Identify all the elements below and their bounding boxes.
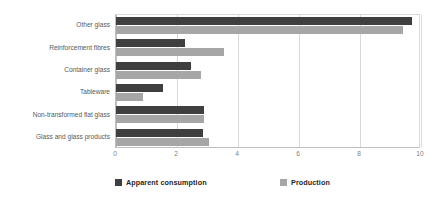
bar-1 xyxy=(116,71,201,79)
bar-group xyxy=(116,60,419,82)
tick-label-4: 4 xyxy=(235,150,239,157)
bar-1 xyxy=(116,48,224,56)
legend-item-0[interactable]: Apparent consumption xyxy=(115,176,207,188)
category-label: Other glass xyxy=(0,21,110,29)
category-label: Tableware xyxy=(0,88,110,96)
bar-chart: Other glassReinforcement fibresContainer… xyxy=(0,0,448,201)
category-label: Container glass xyxy=(0,66,110,74)
bar-1 xyxy=(116,115,204,123)
legend-label: Production xyxy=(291,178,330,187)
category-label: Non-transformed flat glass xyxy=(0,111,110,119)
legend-swatch-icon xyxy=(115,179,122,186)
bar-0 xyxy=(116,17,412,25)
legend-label: Apparent consumption xyxy=(126,178,207,187)
gridline-10 xyxy=(421,15,422,147)
category-axis-labels: Other glassReinforcement fibresContainer… xyxy=(0,14,110,148)
tick-label-0: 0 xyxy=(113,150,117,157)
chart-legend: Apparent consumptionProduction xyxy=(0,176,448,192)
bar-0 xyxy=(116,106,204,114)
bar-1 xyxy=(116,138,209,146)
tick-label-10: 10 xyxy=(416,150,423,157)
bar-group xyxy=(116,37,419,59)
value-axis-tick-labels: 0246810 xyxy=(0,150,448,162)
tick-label-8: 8 xyxy=(357,150,361,157)
tick-label-6: 6 xyxy=(296,150,300,157)
bar-1 xyxy=(116,26,403,34)
tick-label-2: 2 xyxy=(174,150,178,157)
legend-item-1[interactable]: Production xyxy=(280,176,330,188)
bar-0 xyxy=(116,39,185,47)
bar-1 xyxy=(116,93,143,101)
bar-groups xyxy=(116,15,419,147)
bar-group xyxy=(116,15,419,37)
plot-area xyxy=(115,14,420,148)
bar-0 xyxy=(116,84,163,92)
bar-group xyxy=(116,82,419,104)
legend-swatch-icon xyxy=(280,179,287,186)
bar-group xyxy=(116,127,419,149)
category-label: Reinforcement fibres xyxy=(0,44,110,52)
category-label: Glass and glass products xyxy=(0,133,110,141)
bar-group xyxy=(116,104,419,126)
bar-0 xyxy=(116,62,191,70)
bar-0 xyxy=(116,129,203,137)
